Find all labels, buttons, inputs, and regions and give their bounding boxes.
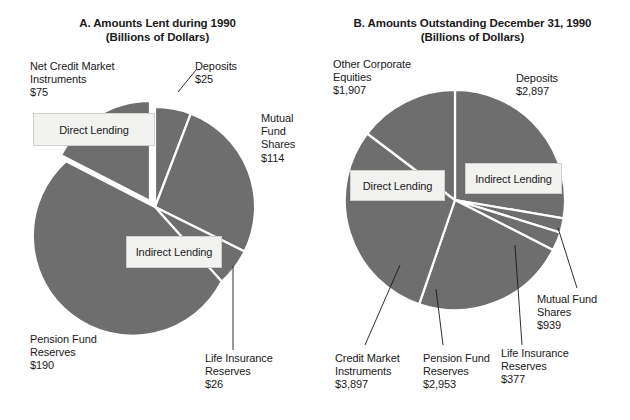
callout-mutual-fund-shares-a: Mutual Fund Shares $114 (261, 112, 315, 165)
leader-line-deposits-a (178, 70, 196, 92)
pie-b-slice-deposits (455, 90, 565, 218)
leader-line-mutual-fund-b (558, 228, 577, 288)
panel-amounts-lent: A. Amounts Lent during 1990 (Billions of… (0, 0, 315, 420)
panel-amounts-outstanding: B. Amounts Outstanding December 31, 1990… (315, 0, 630, 420)
label-box-direct-lending-a: Direct Lending (33, 113, 155, 146)
callout-net-credit-market-instruments-a: Net Credit Market Instruments $75 (30, 60, 115, 100)
callout-life-insurance-reserves-a: Life Insurance Reserves $26 (205, 352, 273, 392)
label-box-indirect-lending-b: Indirect Lending (465, 163, 562, 194)
callout-deposits-b: Deposits $2,897 (516, 72, 558, 98)
label-box-indirect-lending-a: Indirect Lending (126, 236, 222, 268)
callout-deposits-a: Deposits $25 (195, 60, 237, 86)
callout-pension-fund-reserves-a: Pension Fund Reserves $190 (30, 333, 97, 373)
callout-life-insurance-reserves-b: Life Insurance Reserves $377 (501, 347, 569, 387)
callout-credit-market-instruments-b: Credit Market Instruments $3,897 (335, 352, 400, 392)
callout-mutual-fund-shares-b: Mutual Fund Shares $939 (537, 293, 597, 333)
callout-other-corporate-equities-b: Other Corporate Equities $1,907 (333, 58, 411, 98)
label-box-direct-lending-b: Direct Lending (350, 170, 445, 201)
callout-pension-fund-reserves-b: Pension Fund Reserves $2,953 (423, 352, 490, 392)
